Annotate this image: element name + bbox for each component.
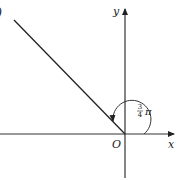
angle-numerator: 3 <box>138 103 142 111</box>
terminal-ray <box>14 20 125 134</box>
y-axis-label: y <box>112 5 120 18</box>
corner-mark: ) <box>0 5 2 20</box>
x-axis-label: x <box>168 138 175 151</box>
angle-pi: π <box>144 106 152 117</box>
angle-denominator: 4 <box>138 111 143 119</box>
origin-label: O <box>112 138 121 151</box>
angle-diagram: ) 3 4 π O x y <box>0 0 178 180</box>
angle-label: 3 4 π <box>137 103 152 119</box>
